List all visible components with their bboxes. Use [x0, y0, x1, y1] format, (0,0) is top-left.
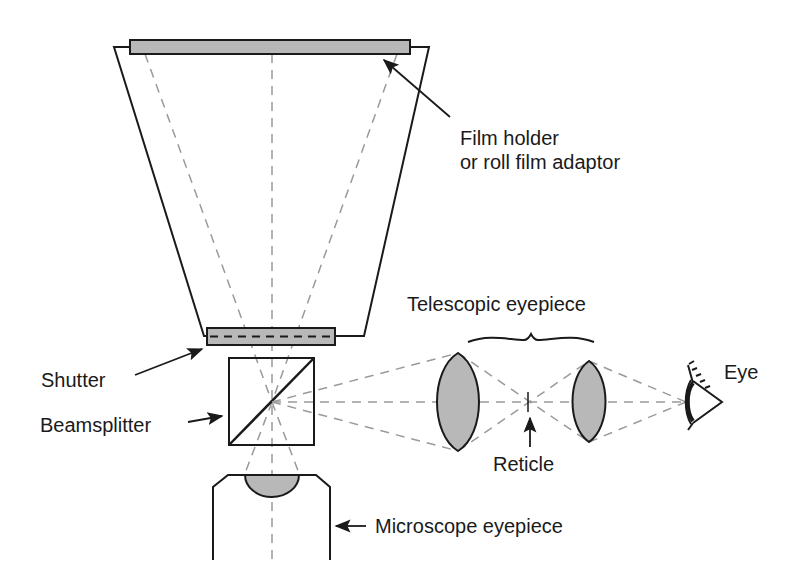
shutter-arrow — [135, 349, 202, 375]
telescopic-eyepiece-label: Telescopic eyepiece — [407, 292, 586, 316]
eye-lens — [573, 361, 606, 442]
telescopic-brace — [468, 334, 594, 342]
film-holder-label-line2: or roll film adaptor — [460, 150, 620, 174]
beamsplitter — [229, 358, 314, 445]
shutter — [207, 328, 335, 345]
objective-lens — [245, 475, 299, 497]
field-lens — [437, 353, 479, 451]
eyepiece-rays — [272, 353, 690, 451]
reticle-label: Reticle — [493, 452, 554, 476]
film-holder-label-line1: Film holder — [460, 126, 620, 150]
film-holder-arrow — [384, 60, 450, 117]
microscope-eyepiece — [213, 475, 330, 560]
microscope-eyepiece-label: Microscope eyepiece — [375, 514, 563, 538]
beamsplitter-arrow — [188, 416, 222, 422]
eye-label: Eye — [724, 360, 758, 384]
beamsplitter-label: Beamsplitter — [40, 413, 151, 437]
shutter-label: Shutter — [41, 368, 105, 392]
eye-icon — [686, 361, 722, 430]
film-holder — [130, 40, 410, 54]
optical-diagram — [0, 0, 802, 583]
film-holder-label: Film holder or roll film adaptor — [460, 126, 620, 174]
